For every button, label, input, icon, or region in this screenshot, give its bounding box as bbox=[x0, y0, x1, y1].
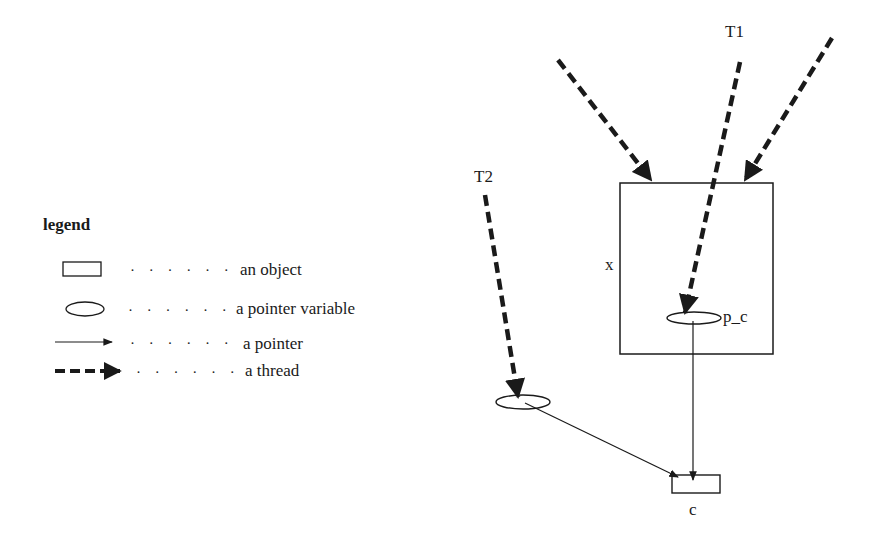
thread-right-to-x bbox=[745, 38, 832, 180]
legend-label-pointer: a pointer bbox=[243, 335, 303, 352]
pointer-variable-p_c bbox=[667, 312, 721, 324]
pointer-t2var-to-c bbox=[525, 403, 678, 477]
legend-object-symbol bbox=[63, 262, 101, 276]
thread-T2-to-pointer-variable bbox=[485, 195, 518, 397]
legend-leader-dots: · · · · · · bbox=[136, 364, 240, 381]
legend-label-object: an object bbox=[240, 261, 302, 278]
object-label-x: x bbox=[605, 256, 614, 273]
legend-leader-dots: · · · · · · bbox=[130, 262, 234, 279]
legend-title: legend bbox=[43, 216, 90, 233]
pointer-variable-label-p_c: p_c bbox=[723, 308, 748, 325]
thread-label-T1: T1 bbox=[725, 23, 744, 40]
object-c bbox=[672, 475, 720, 493]
thread-T1-to-p_c bbox=[685, 62, 740, 313]
object-label-c: c bbox=[689, 501, 697, 518]
legend-leader-dots: · · · · · · bbox=[128, 302, 232, 319]
pointer-variable-t2 bbox=[496, 395, 550, 409]
thread-label-T2: T2 bbox=[474, 168, 493, 185]
thread-left-to-x bbox=[558, 60, 651, 180]
legend-label-pointer-variable: a pointer variable bbox=[236, 300, 355, 317]
legend-leader-dots: · · · · · · bbox=[130, 335, 234, 352]
legend-label-thread: a thread bbox=[245, 362, 299, 379]
legend-pointer-variable-symbol bbox=[66, 302, 104, 316]
